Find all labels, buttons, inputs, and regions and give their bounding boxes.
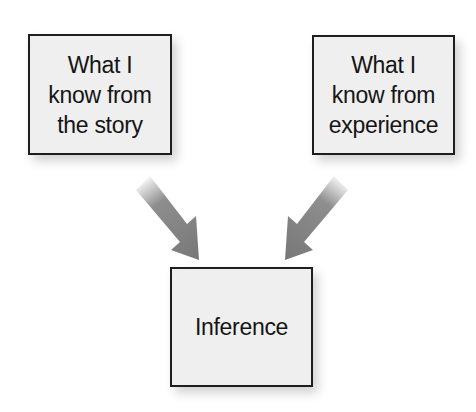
node-label-line: the story (57, 110, 143, 140)
node-label-line: know from (48, 80, 151, 110)
node-what-i-know-from-story: What I know from the story (28, 34, 172, 155)
node-inference: Inference (170, 267, 313, 387)
node-what-i-know-from-experience: What I know from experience (312, 35, 455, 155)
node-label-line: What I (68, 50, 133, 80)
node-label-line: What I (351, 50, 416, 80)
node-label-line: Inference (195, 312, 288, 342)
arrow-story-to-inference (136, 176, 199, 260)
arrow-experience-to-inference (285, 176, 348, 260)
node-label-line: experience (329, 110, 439, 140)
node-label-line: know from (332, 80, 435, 110)
